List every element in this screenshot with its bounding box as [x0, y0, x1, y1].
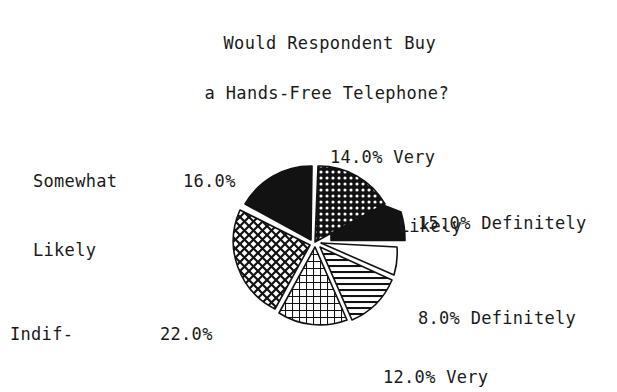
- slice-pct-somewhat-likely: 16.0%: [183, 170, 236, 193]
- slice-text-very-unlikely-line1: Very: [446, 367, 488, 387]
- chart-title: Would Respondent Buy a Hands-Free Teleph…: [0, 6, 617, 131]
- slice-pct-definitely-yes: 15.0%: [418, 213, 471, 233]
- slice-label-somewhat-unlikely: Somewhat13.0% Unlikely: [92, 347, 295, 392]
- slice-text-somewhat-likely-line2: Likely: [33, 239, 183, 262]
- chart-title-line1: Would Respondent Buy: [223, 33, 436, 53]
- slice-text-indifferent-line1: Indif-: [10, 323, 160, 346]
- pie-chart-figure: Would Respondent Buy a Hands-Free Teleph…: [0, 0, 617, 392]
- slice-text-somewhat-likely-line1: Somewhat: [33, 170, 183, 193]
- slice-pct-indifferent: 22.0%: [160, 323, 213, 346]
- slice-label-very-unlikely: 12.0% Very Unlikely: [383, 320, 535, 392]
- slice-text-definitely-yes: Definitely: [481, 213, 586, 233]
- slice-text-very-likely-line1: Very: [393, 147, 435, 167]
- slice-pct-very-unlikely: 12.0%: [383, 367, 436, 387]
- slice-pct-very-likely: 14.0%: [330, 147, 383, 167]
